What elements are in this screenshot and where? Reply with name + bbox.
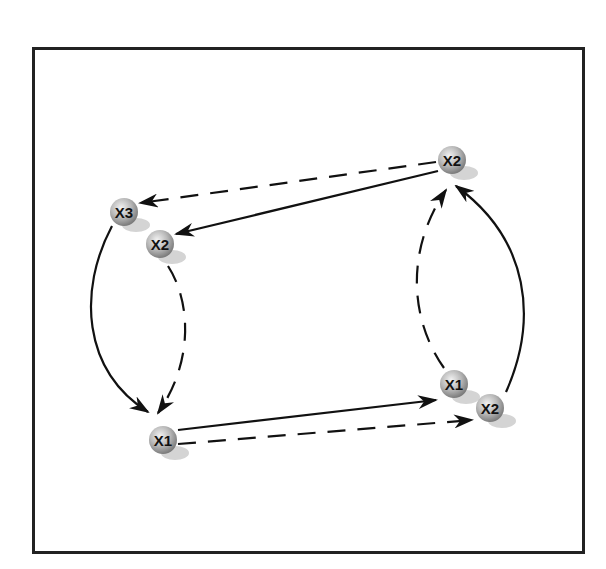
- node-label: X3: [115, 204, 133, 221]
- node-label: X2: [481, 400, 499, 417]
- node-label: X1: [445, 376, 463, 393]
- edge-x2left-to-x1: [158, 266, 185, 413]
- node-x2-left: X2: [146, 230, 186, 264]
- node-x2-top: X2: [438, 146, 478, 180]
- diagram-canvas: X3 X2 X1 X2 X1 X2: [0, 0, 606, 569]
- node-x3-left: X3: [110, 198, 150, 232]
- node-x2-right: X2: [476, 394, 516, 428]
- edge-x1-to-x2right: [178, 420, 472, 444]
- edge-x3-to-x1: [91, 226, 148, 412]
- edge-x1right-to-x2top: [417, 190, 446, 368]
- node-x1-right: X1: [440, 370, 480, 404]
- node-label: X2: [151, 236, 169, 253]
- node-label: X2: [443, 152, 461, 169]
- node-label: X1: [154, 432, 172, 449]
- edge-x2right-to-x2top: [456, 186, 524, 392]
